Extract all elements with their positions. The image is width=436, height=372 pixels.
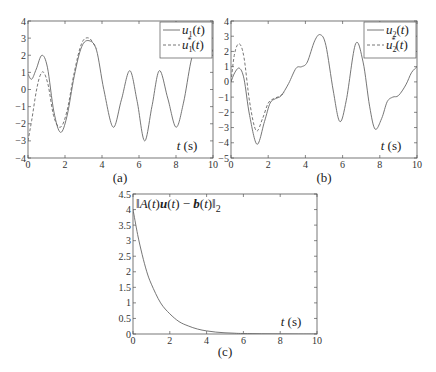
y-tick-label: −5 xyxy=(218,153,229,164)
x-tick-label: 6 xyxy=(137,159,142,170)
y-tick-label: 3 xyxy=(224,31,229,42)
y-tick-label: −1 xyxy=(218,92,229,103)
subplot-caption: (c) xyxy=(218,344,232,359)
legend-close: ) xyxy=(199,37,203,52)
x-tick-label: 0 xyxy=(131,335,136,346)
y-tick-label: 4 xyxy=(126,204,131,215)
annotation-part: ) − xyxy=(175,196,193,211)
y-tick-label: −2 xyxy=(218,107,229,118)
y-tick-label: −1 xyxy=(15,101,26,112)
y-tick-label: 0 xyxy=(224,76,229,87)
subplot-caption: (b) xyxy=(316,170,331,185)
legend: u2(t)u2*(t) xyxy=(364,22,416,58)
subplot-c: 024681000.511.522.533.544.5t (s)(c)‖A(t)… xyxy=(119,189,323,360)
x-tick-label: 0 xyxy=(229,159,234,170)
x-axis-label: t (s) xyxy=(381,138,402,153)
annotation-part: A xyxy=(139,196,148,211)
y-tick-label: 2 xyxy=(126,266,131,277)
annotation-subscript: 2 xyxy=(216,203,221,214)
y-tick-label: 4.5 xyxy=(119,189,132,200)
x-axis-label: t (s) xyxy=(177,138,198,153)
x-tick-label: 6 xyxy=(340,159,345,170)
x-tick-label: 10 xyxy=(208,159,218,170)
x-tick-label: 4 xyxy=(100,159,105,170)
y-tick-label: 4 xyxy=(224,16,229,27)
annotation-part: u xyxy=(160,196,167,211)
y-tick-label: −2 xyxy=(15,118,26,129)
x-tick-label: 4 xyxy=(204,335,209,346)
y-tick-label: 3.5 xyxy=(119,220,132,231)
y-tick-label: 4 xyxy=(21,16,26,27)
y-tick-label: 1 xyxy=(126,297,131,308)
series-line-u1-t- xyxy=(28,38,97,141)
subplot-caption: (a) xyxy=(113,170,127,185)
y-tick-label: −4 xyxy=(218,137,229,148)
legend-label: u1*(t) xyxy=(182,36,204,54)
x-tick-label: 0 xyxy=(26,159,31,170)
legend-close: ) xyxy=(200,22,204,37)
y-tick-label: 3 xyxy=(126,235,131,246)
y-tick-label: 0 xyxy=(126,329,131,340)
legend: u1(t)u1*(t) xyxy=(160,22,212,58)
y-tick-label: 2.5 xyxy=(119,251,132,262)
x-axis-label-unit: (s) xyxy=(384,138,401,153)
x-axis-label-unit: (s) xyxy=(284,314,301,329)
x-tick-label: 8 xyxy=(377,159,382,170)
x-tick-label: 2 xyxy=(266,159,271,170)
x-tick-label: 8 xyxy=(278,335,283,346)
y-tick-label: −3 xyxy=(15,135,26,146)
norm-annotation: ‖A(t)u(t) − b(t)‖2 xyxy=(136,196,221,214)
x-tick-label: 6 xyxy=(241,335,246,346)
x-tick-label: 4 xyxy=(303,159,308,170)
figure: 0246810−4−3−2−101234t (s)(a)u1(t)u1*(t)0… xyxy=(0,0,436,372)
y-tick-label: 1.5 xyxy=(119,282,132,293)
subplot-a: 0246810−4−3−2−101234t (s)(a)u1(t)u1*(t) xyxy=(15,16,218,186)
y-tick-label: 0 xyxy=(21,84,26,95)
y-tick-label: 0.5 xyxy=(119,313,132,324)
x-tick-label: 10 xyxy=(412,159,422,170)
x-tick-label: 2 xyxy=(167,335,172,346)
y-tick-label: 1 xyxy=(224,61,229,72)
x-axis-label-unit: (s) xyxy=(180,138,197,153)
legend-label: u2*(t) xyxy=(386,36,408,54)
y-tick-label: −4 xyxy=(15,153,26,164)
x-axis-label: t (s) xyxy=(281,314,302,329)
y-tick-label: 3 xyxy=(21,33,26,44)
y-tick-label: −3 xyxy=(218,122,229,133)
legend-close: ) xyxy=(403,37,407,52)
y-tick-label: 1 xyxy=(21,67,26,78)
subplot-b: 0246810−5−4−3−2−101234t (s)(b)u2(t)u2*(t… xyxy=(218,16,422,186)
x-tick-label: 10 xyxy=(312,335,322,346)
legend-close: ) xyxy=(404,22,408,37)
series-line-u2-t- xyxy=(231,44,285,131)
x-tick-label: 2 xyxy=(63,159,68,170)
x-tick-label: 8 xyxy=(174,159,179,170)
y-tick-label: 2 xyxy=(224,46,229,57)
y-tick-label: 2 xyxy=(21,50,26,61)
axes-frame xyxy=(133,194,317,334)
